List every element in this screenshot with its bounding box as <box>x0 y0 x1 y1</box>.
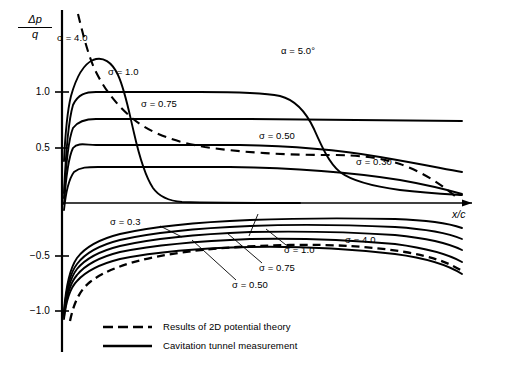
curve-label-sigma-0.50-lower: σ = 0.50 <box>232 279 268 290</box>
angle-of-attack-annotation: α = 5.0° <box>281 45 315 56</box>
y-tick-label-neg0.5: −0.5 <box>6 250 50 261</box>
curve-label-sigma-1.0-upper: σ = 1.0 <box>108 66 139 77</box>
y-tick-label-neg1.0: −1.0 <box>6 305 50 316</box>
curve-label-sigma-0.30-upper: σ = 0.30 <box>356 156 392 167</box>
plot-canvas <box>0 0 510 367</box>
y-tick-label-1.0: 1.0 <box>10 86 50 97</box>
x-axis-title: x/c <box>452 208 466 220</box>
cavitation-pressure-distribution-figure: Δp q <box>0 0 510 367</box>
curve-label-sigma-4.0-lower: σ = 4.0 <box>345 234 376 245</box>
y-tick-label-0.5: 0.5 <box>10 142 50 153</box>
legend-sample-lines <box>103 327 152 346</box>
curve-label-sigma-0.50-upper: σ = 0.50 <box>259 130 295 141</box>
legend-label-cavitation-measurement: Cavitation tunnel measurement <box>163 340 297 351</box>
legend-label-potential-theory: Results of 2D potential theory <box>163 321 291 332</box>
curve-sigma-0.50-lower <box>64 239 462 317</box>
curve-label-sigma-4.0-upper: σ = 4.0 <box>57 32 88 43</box>
leader-sigma-0.50-lower <box>192 240 236 280</box>
curve-label-sigma-0.75-lower: σ = 0.75 <box>259 262 295 273</box>
curve-label-sigma-1.0-lower: σ = 1.0 <box>284 244 315 255</box>
curve-label-sigma-0.3-lower: σ = 0.3 <box>110 216 141 227</box>
curve-label-sigma-0.75-upper: σ = 0.75 <box>141 98 177 109</box>
x-axis-arrowhead <box>462 200 472 207</box>
